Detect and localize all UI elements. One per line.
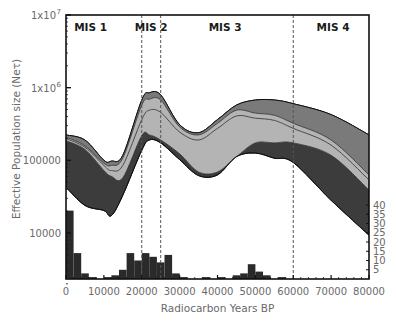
x-tick-label: 40000 <box>202 286 234 297</box>
x-tick-label: 30000 <box>164 286 196 297</box>
period-labels: MIS 1MIS 2MIS 3MIS 4 <box>74 21 349 33</box>
y2-tick-label: 40 <box>373 200 386 211</box>
x-tick-label: 80000 <box>353 286 385 297</box>
period-label: MIS 3 <box>209 21 242 33</box>
x-tick-label: 10000 <box>88 286 120 297</box>
histogram-bar <box>81 273 89 279</box>
x-axis-title: Radiocarbon Years BP <box>161 302 275 314</box>
x-tick-label: 20000 <box>126 286 158 297</box>
y-axis-title: Effective Population size (Neτ) <box>10 59 22 219</box>
period-label: MIS 4 <box>317 21 350 33</box>
x-tick-label: 60000 <box>277 286 309 297</box>
bsp-chart: 0100002000030000400005000060000700008000… <box>0 0 396 326</box>
y-tick-exponent: 6 <box>57 81 62 89</box>
x-tick-label: 50000 <box>239 286 271 297</box>
histogram-bar <box>149 257 157 279</box>
histogram-bar <box>119 270 127 279</box>
histogram-bar <box>255 272 263 279</box>
histogram-bar <box>74 253 82 279</box>
x-tick-label: 0 <box>63 286 69 297</box>
y-tick-label: 1x10 <box>31 83 56 94</box>
x-tick-label: 70000 <box>315 286 347 297</box>
histogram-bar <box>142 253 150 279</box>
y-tick-label: 1x10 <box>31 10 56 21</box>
period-label: MIS 1 <box>74 21 107 33</box>
histogram-bar <box>240 273 248 279</box>
y-axis-ticks: 100001000001x1061x107 <box>23 8 71 284</box>
population-bands <box>66 92 369 236</box>
y-tick-label: 100000 <box>23 155 61 166</box>
histogram-bar <box>127 253 135 279</box>
period-label: MIS 2 <box>135 21 168 33</box>
histogram <box>66 211 286 279</box>
histogram-bar <box>248 264 256 279</box>
histogram-bar <box>134 261 142 280</box>
histogram-bar <box>172 273 180 279</box>
histogram-bar <box>66 211 74 279</box>
y-tick-label: 10000 <box>29 228 61 239</box>
histogram-bar <box>165 255 173 279</box>
y-tick-exponent: 7 <box>57 8 61 16</box>
